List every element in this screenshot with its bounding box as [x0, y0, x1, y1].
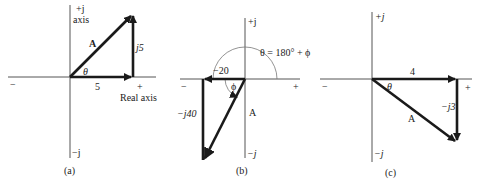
panel-b: +j θ = 180° + ϕ −20 ϕ − + −j40 A −j (b): [177, 16, 310, 177]
real-neg-label: −: [322, 81, 328, 92]
angle-label: θ: [83, 66, 88, 77]
vector-label: A: [249, 107, 257, 118]
imag-axis-label: axis: [73, 14, 89, 25]
real-pos-label: +: [137, 81, 143, 92]
real-component-label: 4: [410, 66, 415, 77]
imag-pos-label: +j: [375, 11, 385, 22]
vector-label: A: [408, 113, 416, 124]
panel-caption: (a): [64, 165, 75, 177]
panel-a: +j axis A θ j5 5 − + Real axis −j (a): [8, 3, 157, 177]
imag-component-label: j5: [134, 42, 144, 53]
real-neg-label: −: [10, 79, 16, 90]
imag-pos-label: +j: [248, 16, 256, 27]
vector-label: A: [89, 38, 97, 49]
angle-label: ϕ: [231, 81, 236, 92]
panel-caption: (b): [236, 165, 248, 177]
panel-caption: (c): [385, 167, 396, 179]
imag-neg-label: −j: [247, 148, 257, 159]
imag-component-label: −j40: [177, 108, 197, 119]
real-component-label: −20: [213, 65, 229, 76]
vector-a-arrow: [205, 79, 245, 158]
imag-neg-label: −j: [72, 147, 80, 158]
theta-equation-label: θ = 180° + ϕ: [260, 47, 310, 58]
imag-neg-label: −j: [374, 148, 384, 159]
real-pos-label: +: [465, 82, 471, 93]
angle-label: θ: [387, 81, 392, 92]
imag-component-label: −j3: [441, 101, 456, 112]
real-neg-label: −: [181, 81, 187, 92]
phasor-diagram: +j axis A θ j5 5 − + Real axis −j (a) +j…: [0, 0, 479, 184]
imag-pos-label: +j: [76, 3, 84, 14]
vector-a-arrow: [70, 16, 131, 77]
real-component-label: 5: [95, 81, 100, 92]
real-axis-label: Real axis: [120, 92, 157, 103]
real-pos-label: +: [293, 81, 299, 92]
panel-c: +j 4 θ − + −j3 A −j (c): [320, 11, 472, 179]
